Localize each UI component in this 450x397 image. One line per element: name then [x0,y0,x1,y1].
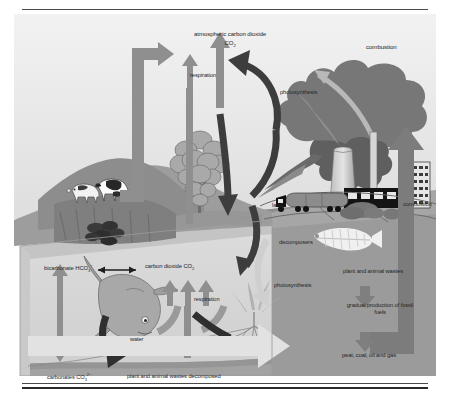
label-bicarbonate: bicarbonate HCO3− [44,264,92,274]
label-wastes-decomposed: plant and animal wastes decomposed [127,373,221,380]
label-respiration-water: respiration [194,296,219,303]
label-photosynthesis-water: photosynthesis [274,282,311,289]
label-carbon-dioxide-water: carbon dioxide CO2 [145,263,194,272]
label-land: land [272,202,283,209]
label-peat-coal-oil-gas: peat, coal, oil and gas [340,352,398,359]
bottom-divider-rule-thin [22,383,428,384]
label-respiration-land: respiration [190,72,216,79]
bottom-divider-rule-thick [22,387,428,389]
label-atmospheric-co2-formula: CO2 [224,39,235,49]
label-atmospheric-co2: atmospheric carbon dioxide [194,30,266,37]
top-divider-rule [22,9,428,10]
label-decomposers: decomposers [279,239,313,246]
label-gradual-production: gradual production of fossil fuels [342,302,418,315]
figure-page: atmospheric carbon dioxide CO2 respirati… [0,0,450,397]
label-combustion-right: combustion [403,201,432,208]
label-combustion-top: combustion [366,43,397,50]
respiration-stem-land [186,88,193,224]
label-carbonates: carbonates CO32− [47,373,91,383]
carbon-cycle-diagram: atmospheric carbon dioxide CO2 respirati… [14,14,436,376]
label-water: water [130,336,143,343]
diagram-canvas [14,14,436,376]
label-photosynthesis-land: photosynthesis [280,89,317,96]
water-left-face [20,246,30,376]
label-plant-and-animal-wastes: plant and animal wastes [338,268,408,275]
